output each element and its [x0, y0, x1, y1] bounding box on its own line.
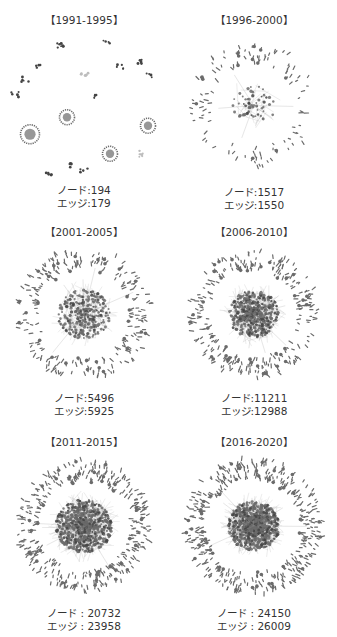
- node-count: ノード:194: [0, 184, 168, 197]
- edge-count: エッジ:5925: [0, 405, 168, 418]
- panel-2006-2010: 【2006-2010】 ノード:11211 エッジ:12988: [170, 215, 337, 425]
- network-graph: [170, 451, 337, 601]
- panel-title: 【2006-2010】: [170, 224, 337, 239]
- network-graph: [0, 239, 168, 389]
- panel-title: 【2001-2005】: [0, 224, 168, 239]
- panel-2001-2005: 【2001-2005】 ノード:5496 エッジ:5925: [0, 215, 168, 425]
- stats: ノード : 24150 エッジ : 26009: [170, 607, 337, 633]
- network-graph: [170, 28, 337, 183]
- network-graph: [0, 28, 168, 178]
- panel-2016-2020: 【2016-2020】 ノード : 24150 エッジ : 26009: [170, 425, 337, 637]
- panel-1996-2000: 【1996-2000】 ノード:1517 エッジ:1550: [170, 0, 337, 215]
- network-graph: [0, 451, 168, 601]
- edge-count: エッジ : 26009: [170, 620, 337, 633]
- edge-count: エッジ : 23958: [0, 620, 168, 633]
- edge-count: エッジ:12988: [170, 405, 337, 418]
- node-count: ノード : 20732: [0, 607, 168, 620]
- node-count: ノード:1517: [170, 186, 337, 199]
- panel-1991-1995: 【1991-1995】 ノード:194 エッジ:179: [0, 0, 168, 215]
- edge-count: エッジ:179: [0, 197, 168, 210]
- edge-count: エッジ:1550: [170, 199, 337, 212]
- node-count: ノード:5496: [0, 392, 168, 405]
- node-count: ノード : 24150: [170, 607, 337, 620]
- stats: ノード:1517 エッジ:1550: [170, 186, 337, 212]
- panel-title: 【2016-2020】: [170, 434, 337, 449]
- stats: ノード : 20732 エッジ : 23958: [0, 607, 168, 633]
- network-graph: [170, 239, 337, 389]
- panel-title: 【1996-2000】: [170, 12, 337, 27]
- node-count: ノード:11211: [170, 392, 337, 405]
- panel-title: 【2011-2015】: [0, 434, 168, 449]
- panel-2011-2015: 【2011-2015】 ノード : 20732 エッジ : 23958: [0, 425, 168, 637]
- stats: ノード:5496 エッジ:5925: [0, 392, 168, 418]
- panel-title: 【1991-1995】: [0, 12, 168, 27]
- stats: ノード:11211 エッジ:12988: [170, 392, 337, 418]
- stats: ノード:194 エッジ:179: [0, 184, 168, 210]
